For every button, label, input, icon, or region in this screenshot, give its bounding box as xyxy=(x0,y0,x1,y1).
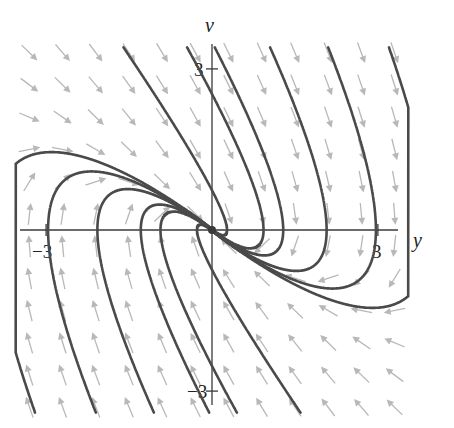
field-arrow xyxy=(124,397,133,417)
field-arrow xyxy=(223,398,233,417)
field-arrow xyxy=(91,300,99,321)
solution-curve xyxy=(213,47,327,271)
field-arrow xyxy=(359,171,366,193)
field-arrow xyxy=(121,142,137,157)
field-arrow xyxy=(319,305,338,316)
field-arrow xyxy=(321,367,335,384)
field-arrow xyxy=(24,172,36,191)
field-arrow xyxy=(325,139,333,160)
field-arrow xyxy=(291,75,300,95)
field-arrow xyxy=(86,144,105,155)
field-arrow xyxy=(89,77,103,94)
field-arrow xyxy=(223,269,235,288)
field-arrow xyxy=(58,397,66,418)
field-arrow xyxy=(58,268,65,290)
x-axis-label: y xyxy=(411,229,422,252)
field-arrow xyxy=(392,171,399,193)
field-arrow xyxy=(91,332,99,353)
field-arrow xyxy=(325,107,333,128)
y-axis-label: v xyxy=(205,14,214,36)
field-arrow xyxy=(256,398,267,417)
field-arrow xyxy=(257,75,266,95)
field-arrow xyxy=(387,400,403,415)
field-arrow xyxy=(190,172,202,191)
solution-curve xyxy=(213,47,283,255)
field-arrow xyxy=(224,172,233,192)
field-arrow xyxy=(352,337,370,350)
field-arrow xyxy=(224,139,234,159)
field-arrow xyxy=(25,300,32,321)
field-arrow xyxy=(322,398,335,416)
field-arrow xyxy=(156,141,169,159)
phase-portrait-chart: −333−3 y v xyxy=(0,0,454,428)
field-arrow xyxy=(386,368,404,381)
field-arrow xyxy=(224,107,234,127)
field-arrow xyxy=(258,171,266,192)
solution-curve xyxy=(97,189,211,413)
field-arrow xyxy=(122,109,136,126)
field-arrow xyxy=(123,76,136,94)
field-arrow xyxy=(25,268,32,290)
field-arrow xyxy=(59,235,66,257)
field-arrow xyxy=(124,300,132,321)
field-arrow xyxy=(156,76,168,95)
field-arrow xyxy=(154,174,170,189)
field-arrow xyxy=(191,301,201,321)
field-arrow xyxy=(22,45,38,60)
field-arrow xyxy=(292,171,299,192)
field-arrow xyxy=(158,268,166,289)
field-arrow xyxy=(157,365,166,385)
field-arrow xyxy=(55,44,69,61)
field-arrow xyxy=(223,333,234,352)
field-arrow xyxy=(358,203,365,225)
field-arrow xyxy=(389,269,401,288)
field-arrow xyxy=(256,366,268,385)
field-arrow xyxy=(224,43,234,63)
field-arrow xyxy=(92,268,99,289)
field-arrow xyxy=(384,338,404,347)
field-arrow xyxy=(223,365,234,384)
field-arrow xyxy=(123,44,135,62)
field-arrow xyxy=(191,268,200,288)
field-arrow xyxy=(124,365,133,385)
field-arrow xyxy=(55,77,71,92)
field-arrow xyxy=(324,75,332,96)
field-arrow xyxy=(255,302,268,320)
field-arrow xyxy=(358,75,366,96)
field-arrow xyxy=(257,43,266,63)
field-arrow xyxy=(21,78,39,91)
field-arrow xyxy=(125,268,132,289)
field-arrow xyxy=(58,332,66,353)
equilibrium-point xyxy=(208,226,216,234)
field-arrow xyxy=(290,236,298,257)
field-arrow xyxy=(19,145,41,152)
field-arrow xyxy=(25,332,33,353)
field-arrow xyxy=(254,271,270,286)
field-arrow xyxy=(392,139,399,160)
field-arrow xyxy=(287,303,303,318)
field-arrow xyxy=(289,366,302,384)
field-arrow xyxy=(125,203,133,224)
field-arrow xyxy=(157,333,166,353)
field-arrow xyxy=(291,43,300,63)
field-arrow xyxy=(357,235,364,257)
field-arrow xyxy=(354,399,368,416)
field-arrow xyxy=(58,365,66,386)
field-arrow xyxy=(125,235,132,257)
field-arrow xyxy=(320,335,336,350)
field-arrow xyxy=(288,334,302,351)
field-arrow xyxy=(391,235,398,257)
field-arrow xyxy=(89,44,102,62)
field-arrow xyxy=(292,203,299,225)
v-tick-label: −3 xyxy=(187,381,207,402)
axes xyxy=(20,44,398,405)
field-arrow xyxy=(60,203,67,225)
field-arrow xyxy=(326,171,333,192)
field-arrow xyxy=(157,397,166,417)
field-arrow xyxy=(157,43,168,62)
field-arrow xyxy=(191,333,201,353)
field-arrow xyxy=(358,42,366,63)
field-arrow xyxy=(391,107,399,128)
field-arrow xyxy=(257,107,266,127)
field-arrow xyxy=(91,365,99,386)
